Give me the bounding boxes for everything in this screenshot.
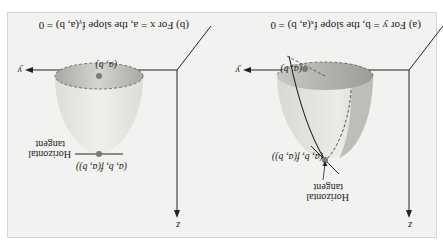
- y-axis-arrow-icon: [243, 67, 251, 73]
- caption-b: (b) For x = a, the slope fᵧ(a, b) = 0: [39, 20, 189, 32]
- svg-text:y: y: [235, 65, 241, 76]
- panel-b: z y (a, b, f(a, b)) (a, b) Horizontal ta…: [17, 26, 211, 231]
- svg-text:(a, b, f(a, b)): (a, b, f(a, b)): [271, 151, 323, 163]
- point-bottom-a: [302, 66, 308, 72]
- svg-text:(a, b): (a, b): [280, 63, 302, 75]
- z-axis-arrow-icon: [174, 210, 180, 218]
- rotated-figure-page: z y (a, b, f(a, b)) (a, b): [0, 0, 443, 244]
- svg-text:tangent: tangent: [313, 182, 343, 193]
- svg-text:z: z: [176, 220, 181, 231]
- svg-text:y: y: [17, 65, 23, 76]
- svg-text:(a, b): (a, b): [95, 59, 117, 71]
- caption-a: (a) For y = b, the slope fₓ(a, b) = 0: [270, 20, 421, 32]
- svg-text:tangent: tangent: [35, 139, 65, 150]
- z-axis-arrow-icon: [406, 210, 412, 218]
- figure-drawing: z y (a, b, f(a, b)) (a, b): [0, 0, 443, 244]
- svg-text:Horizontal: Horizontal: [28, 149, 71, 160]
- point-bottom-b: [96, 73, 102, 79]
- svg-text:(a, b, f(a, b)): (a, b, f(a, b)): [75, 161, 127, 173]
- panel-a: z y (a, b, f(a, b)) (a, b): [235, 26, 443, 231]
- point-top-b: [96, 151, 102, 157]
- z-label-a: z: [408, 220, 413, 231]
- y-axis-arrow-icon: [25, 67, 33, 73]
- svg-text:Horizontal: Horizontal: [306, 192, 349, 203]
